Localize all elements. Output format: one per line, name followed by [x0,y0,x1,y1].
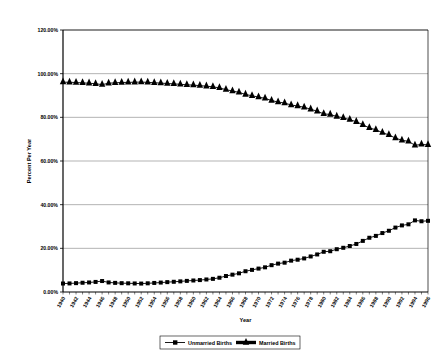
y-tick-label: 40.00% [40,202,58,208]
data-marker [133,281,137,285]
chart-legend: Unmarried BirthsMarried Births [160,336,300,349]
data-marker [126,281,130,285]
data-marker [211,277,215,281]
data-marker [315,252,319,256]
y-tick-label: 120.00% [38,27,59,33]
y-axis-title: Percent Per Year [26,138,32,183]
data-marker [354,242,358,246]
data-marker [68,281,72,285]
y-tick-label: 100.00% [38,71,59,77]
x-tick-label: 1972 [264,295,275,308]
data-marker [146,281,150,285]
x-tick-label: 1988 [368,295,379,308]
x-tick-label: 1978 [303,295,314,308]
x-tick-label: 1976 [290,295,301,308]
data-marker [289,259,293,263]
x-tick-label: 1946 [95,295,106,308]
data-marker [152,281,156,285]
x-tick-label: 1944 [81,295,92,308]
y-axis-ticks: 0.00%20.00%40.00%60.00%80.00%100.00%120.… [38,27,63,295]
data-marker [263,265,267,269]
data-marker [185,279,189,283]
x-tick-label: 1970 [251,295,262,308]
x-tick-label: 1996 [420,295,431,308]
data-marker [283,261,287,265]
legend-label-unmarried: Unmarried Births [188,340,232,346]
x-tick-label: 1966 [225,295,236,308]
data-marker [335,247,339,251]
data-marker [100,279,104,283]
data-marker [74,281,78,285]
x-tick-label: 1964 [212,295,223,308]
x-tick-label: 1952 [134,295,145,308]
data-marker [393,226,397,230]
x-tick-label: 1954 [147,295,158,308]
x-tick-label: 1986 [355,295,366,308]
data-marker [139,282,143,286]
x-tick-label: 1968 [238,295,249,308]
data-marker [107,280,111,284]
data-marker [426,219,430,223]
data-marker [94,280,98,284]
data-marker [165,280,169,284]
data-marker [230,273,234,277]
data-marker [244,269,248,273]
data-marker [374,234,378,238]
x-tick-label: 1994 [407,295,418,308]
x-tick-label: 1948 [108,295,119,308]
x-tick-label: 1992 [394,295,405,308]
data-marker [296,258,300,262]
data-marker [400,223,404,227]
x-axis-title: Year [240,317,253,323]
data-marker [120,281,124,285]
data-marker [159,281,163,285]
data-marker [322,250,326,254]
data-marker [224,274,228,278]
data-marker [178,279,182,283]
y-tick-label: 80.00% [40,114,58,120]
data-marker [204,277,208,281]
x-tick-label: 1940 [55,295,66,308]
data-marker [387,229,391,233]
data-marker [257,267,261,271]
data-marker [406,222,410,226]
legend-label-married: Married Births [259,340,296,346]
data-marker [191,278,195,282]
data-marker [341,246,345,250]
births-percent-line-chart: 0.00%20.00%40.00%60.00%80.00%100.00%120.… [0,0,446,364]
x-tick-label: 1956 [160,295,171,308]
x-tick-label: 1962 [199,295,210,308]
data-marker [250,268,254,272]
data-marker [361,239,365,243]
data-marker [367,236,371,240]
data-marker [113,281,117,285]
x-axis-ticks: 1940194219441946194819501952195419561958… [55,292,431,308]
y-tick-label: 20.00% [40,245,58,251]
data-marker [270,263,274,267]
x-tick-label: 1984 [342,295,353,308]
data-marker [276,262,280,266]
x-tick-label: 1980 [316,295,327,308]
data-marker [87,280,91,284]
x-tick-label: 1990 [381,295,392,308]
chart-container: 0.00%20.00%40.00%60.00%80.00%100.00%120.… [0,0,446,364]
data-marker [172,280,176,284]
x-tick-label: 1958 [173,295,184,308]
data-marker [61,282,65,286]
x-tick-label: 1950 [121,295,132,308]
x-tick-label: 1982 [329,295,340,308]
data-marker [413,218,417,222]
data-marker [328,249,332,253]
data-marker [309,254,313,258]
y-tick-label: 60.00% [40,158,58,164]
data-marker [302,256,306,260]
data-marker [217,276,221,280]
y-tick-label: 0.00% [43,289,58,295]
x-tick-label: 1960 [186,295,197,308]
data-marker [198,278,202,282]
data-marker [419,219,423,223]
x-tick-label: 1974 [277,295,288,308]
data-marker [81,281,85,285]
x-tick-label: 1942 [68,295,79,308]
data-marker [237,271,241,275]
